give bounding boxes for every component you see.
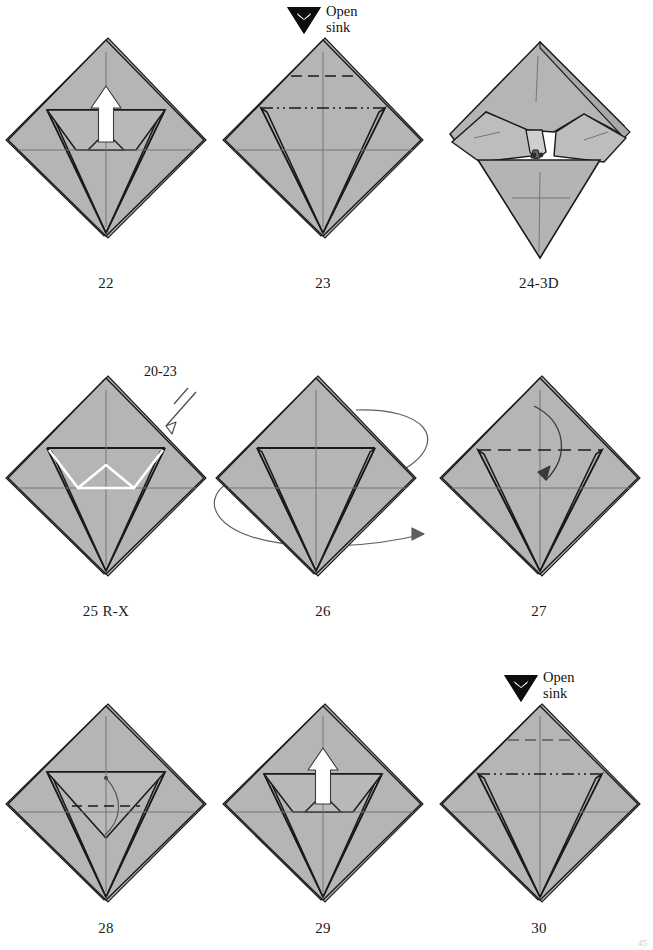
paper-layers <box>6 704 206 902</box>
figure-caption-26: 26 <box>213 603 433 620</box>
open-sink-label-line2: sink <box>543 686 574 702</box>
figure-24 <box>434 22 653 262</box>
paper-layers <box>440 376 640 576</box>
figure-caption-30: 30 <box>429 920 649 937</box>
figure-caption-27: 27 <box>429 603 649 620</box>
open-sink-label-line1: Open <box>543 670 574 686</box>
figure-28-drawing <box>0 690 220 920</box>
figure-caption-25: 25 R-X <box>0 603 216 620</box>
figure-caption-23: 23 <box>213 275 433 292</box>
figure-22 <box>0 22 220 262</box>
figure-22-drawing <box>0 22 220 262</box>
paper-layers <box>223 38 423 238</box>
open-sink-label-line1: Open <box>326 4 357 20</box>
repeat-steps-label: 20-23 <box>144 364 177 380</box>
paper-layers <box>216 376 416 576</box>
page-number: 45 <box>638 938 647 948</box>
figure-caption-24: 24-3D <box>429 275 649 292</box>
figure-caption-29: 29 <box>213 920 433 937</box>
figure-23-drawing <box>217 22 437 262</box>
figure-23 <box>217 22 437 262</box>
figure-26 <box>196 360 456 600</box>
figure-29-drawing <box>217 690 437 920</box>
figure-30 <box>434 690 653 920</box>
figure-29 <box>217 690 437 920</box>
open-sink-label-30: Open sink <box>543 670 574 701</box>
repeat-arrow-icon <box>166 388 196 434</box>
open-sink-marker-icon <box>501 672 541 704</box>
figure-27 <box>434 360 653 600</box>
figure-caption-28: 28 <box>0 920 216 937</box>
figure-30-drawing <box>434 690 653 920</box>
figure-27-drawing <box>434 360 653 600</box>
open-sink-label-23: Open sink <box>326 4 357 35</box>
open-sink-marker-icon <box>284 4 324 36</box>
paper-layers-3d <box>450 42 630 258</box>
figure-24-drawing <box>434 22 653 262</box>
figure-26-drawing <box>196 360 456 600</box>
figure-caption-22: 22 <box>0 275 216 292</box>
figure-28 <box>0 690 220 920</box>
diagram-page: 22 Open sink 23 <box>0 0 653 950</box>
paper-layers <box>6 376 206 576</box>
open-sink-label-line2: sink <box>326 20 357 36</box>
paper-layers <box>440 704 640 902</box>
